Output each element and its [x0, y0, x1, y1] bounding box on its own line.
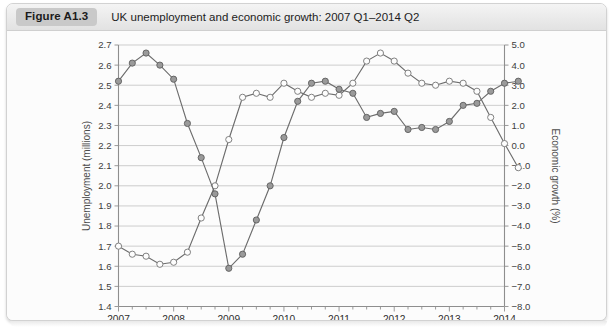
series-line	[119, 53, 519, 264]
y-tick-label: 2.1	[98, 160, 111, 171]
data-point-marker	[405, 70, 411, 76]
data-point-marker	[391, 108, 397, 114]
data-point-marker	[488, 114, 494, 120]
data-point-marker	[239, 251, 245, 257]
data-point-marker	[515, 165, 521, 171]
data-point-marker	[377, 50, 383, 56]
y-tick-label: 1.5	[98, 281, 111, 292]
y-tick-label: 1.6	[98, 261, 111, 272]
data-point-marker	[391, 58, 397, 64]
y2-tick-label: −8.0	[512, 301, 531, 312]
data-point-marker	[184, 120, 190, 126]
y-tick-label: 1.9	[98, 200, 111, 211]
data-point-marker	[281, 80, 287, 86]
x-tick-marks-group	[119, 307, 505, 312]
data-point-marker	[308, 80, 314, 86]
y2-tick-label: 4.0	[512, 60, 525, 71]
data-point-marker	[488, 88, 494, 94]
data-point-marker	[405, 126, 411, 132]
data-point-marker	[501, 80, 507, 86]
chart-plot-area: 1.41.51.61.71.81.92.02.12.22.32.42.52.62…	[7, 31, 607, 321]
data-point-marker	[239, 94, 245, 100]
y2-tick-label: 0.0	[512, 140, 525, 151]
data-point-marker	[143, 50, 149, 56]
y-tick-label: 2.0	[98, 180, 111, 191]
y-axis-tick-labels: 1.41.51.61.71.81.92.02.12.22.32.42.52.62…	[98, 39, 112, 312]
data-point-marker	[460, 102, 466, 108]
y-tick-label: 2.6	[98, 60, 111, 71]
y2-tick-label: −2.0	[512, 180, 531, 191]
data-point-marker	[253, 217, 259, 223]
data-point-marker	[129, 60, 135, 66]
y-axis-title: Unemployment (millions)	[81, 121, 92, 231]
data-point-marker	[336, 92, 342, 98]
data-point-marker	[501, 140, 507, 146]
y-tick-label: 2.3	[98, 120, 111, 131]
y2-tick-label: 2.0	[512, 100, 525, 111]
x-tick-label: 2013	[438, 314, 461, 322]
data-point-marker	[308, 94, 314, 100]
x-tick-label: 2014	[493, 314, 516, 322]
data-point-marker	[115, 78, 121, 84]
chart-svg: 1.41.51.61.71.81.92.02.12.22.32.42.52.62…	[7, 31, 607, 321]
x-tick-label: 2009	[217, 314, 240, 322]
data-point-marker	[267, 183, 273, 189]
x-axis-tick-labels: 20072008200920102011201220132014	[107, 314, 516, 322]
data-point-marker	[212, 191, 218, 197]
data-point-marker	[295, 98, 301, 104]
data-point-marker	[184, 249, 190, 255]
data-point-marker	[115, 243, 121, 249]
y-tick-label: 2.7	[98, 39, 111, 50]
data-point-marker	[157, 62, 163, 68]
data-point-marker	[267, 94, 273, 100]
data-point-marker	[171, 76, 177, 82]
y2-tick-label: −4.0	[512, 220, 531, 231]
x-tick-label: 2012	[383, 314, 406, 322]
data-point-marker	[295, 88, 301, 94]
y2-tick-label: 1.0	[512, 120, 525, 131]
data-point-marker	[350, 80, 356, 86]
data-point-marker	[198, 155, 204, 161]
data-point-marker	[377, 110, 383, 116]
data-point-marker	[157, 261, 163, 267]
data-point-marker	[460, 80, 466, 86]
data-point-marker	[322, 90, 328, 96]
data-point-marker	[474, 88, 480, 94]
data-point-marker	[171, 259, 177, 265]
y2-tick-label: −7.0	[512, 281, 531, 292]
y-tick-label: 1.8	[98, 220, 111, 231]
data-point-marker	[253, 90, 259, 96]
data-point-marker	[446, 78, 452, 84]
x-tick-label: 2010	[273, 314, 296, 322]
data-point-marker	[432, 126, 438, 132]
data-point-marker	[198, 215, 204, 221]
data-point-marker	[474, 100, 480, 106]
figure-header: Figure A1.3 UK unemployment and economic…	[7, 4, 607, 31]
data-point-marker	[515, 78, 521, 84]
y2-tick-label: −6.0	[512, 261, 531, 272]
figure-title: UK unemployment and economic growth: 200…	[111, 11, 419, 23]
data-point-marker	[143, 253, 149, 259]
y-tick-label: 2.2	[98, 140, 111, 151]
y2-axis-title: Economic growth (%)	[550, 128, 561, 223]
data-point-marker	[446, 118, 452, 124]
data-point-marker	[364, 58, 370, 64]
y-tick-label: 2.5	[98, 80, 111, 91]
source-note	[40, 324, 580, 330]
y-tick-label: 1.4	[98, 301, 112, 312]
data-point-marker	[226, 136, 232, 142]
data-point-marker	[419, 124, 425, 130]
data-point-marker	[226, 265, 232, 271]
data-point-marker	[281, 134, 287, 140]
y-tick-label: 2.4	[98, 100, 112, 111]
y2-tick-label: −3.0	[512, 200, 531, 211]
x-tick-label: 2011	[328, 314, 350, 322]
y2-tick-label: 5.0	[512, 39, 525, 50]
figure-number-badge: Figure A1.3	[16, 8, 97, 27]
data-point-marker	[419, 80, 425, 86]
figure-card: Figure A1.3 UK unemployment and economic…	[6, 3, 607, 321]
data-point-marker	[432, 82, 438, 88]
y2-tick-label: −5.0	[512, 241, 531, 252]
data-point-marker	[350, 90, 356, 96]
data-point-marker	[336, 86, 342, 92]
